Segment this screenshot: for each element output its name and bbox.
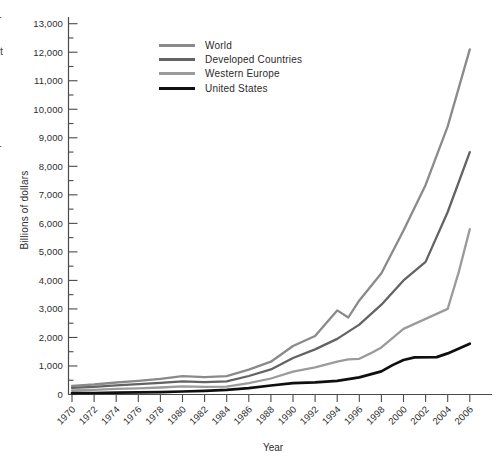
legend-item-developed-countries: Developed Countries (159, 52, 302, 66)
x-tick-label: 1998 (364, 404, 387, 427)
x-tick-label: 1996 (342, 404, 365, 427)
y-tick-label: 3,000 (39, 303, 63, 314)
y-tick-label: 11,000 (34, 75, 63, 86)
legend-item-world: World (159, 38, 302, 52)
x-tick-label: 2004 (430, 404, 453, 427)
y-tick-label: 4,000 (39, 275, 63, 286)
x-tick-label: 1976 (121, 404, 144, 427)
legend-swatch-united-states (159, 87, 195, 90)
series-line-western-europe (72, 229, 470, 390)
y-tick-label: 6,000 (39, 218, 63, 229)
y-tick-label: 9,000 (39, 132, 63, 143)
x-tick-label: 1982 (187, 404, 210, 427)
y-tick-label: 12,000 (33, 47, 63, 58)
x-tick-label: 1986 (231, 404, 254, 427)
x-tick-label: 2006 (452, 404, 475, 427)
y-tick-label: 0 (58, 389, 63, 400)
legend-item-western-europe: Western Europe (159, 67, 302, 81)
legend-swatch-world (159, 44, 195, 47)
legend-label: Developed Countries (205, 54, 302, 65)
fdi-line-chart-figure: - t - Billions of dollars 01,0002,0003,0… (0, 0, 501, 469)
x-tick-label: 1984 (209, 404, 232, 427)
chart-legend: WorldDeveloped CountriesWestern EuropeUn… (159, 38, 302, 95)
legend-label: United States (205, 83, 268, 94)
x-tick-label: 1992 (298, 404, 321, 427)
y-tick-label: 8,000 (39, 161, 63, 172)
x-tick-label: 1970 (54, 404, 77, 427)
y-tick-label: 2,000 (39, 332, 63, 343)
series-line-world (72, 49, 470, 386)
legend-label: World (205, 40, 232, 51)
x-tick-label: 1974 (99, 404, 122, 427)
y-tick-label: 1,000 (39, 360, 63, 371)
x-tick-label: 2000 (386, 404, 409, 427)
x-axis-title: Year (263, 442, 284, 453)
legend-swatch-developed-countries (159, 58, 195, 61)
x-tick-label: 1972 (77, 404, 100, 427)
x-tick-label: 1994 (320, 404, 343, 427)
x-tick-label: 2002 (408, 404, 431, 427)
x-tick-label: 1978 (143, 404, 166, 427)
x-tick-label: 1980 (165, 404, 188, 427)
series-line-developed-countries (72, 152, 470, 388)
legend-swatch-western-europe (159, 72, 195, 75)
y-tick-label: 10,000 (33, 104, 63, 115)
y-tick-label: 13,000 (33, 18, 63, 29)
legend-label: Western Europe (205, 68, 280, 79)
y-tick-label: 5,000 (39, 246, 63, 257)
x-tick-label: 1990 (275, 404, 298, 427)
x-tick-label: 1988 (253, 404, 276, 427)
y-tick-label: 7,000 (39, 189, 63, 200)
legend-item-united-states: United States (159, 81, 302, 95)
